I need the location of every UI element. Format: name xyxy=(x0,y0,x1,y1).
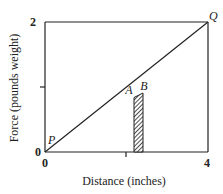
shaded-strip xyxy=(134,93,143,152)
point-p-label: P xyxy=(47,133,56,147)
x-axis-title: Distance (inches) xyxy=(82,174,166,188)
point-a-label: A xyxy=(124,83,133,97)
point-b-label: B xyxy=(140,79,148,93)
point-q-label: Q xyxy=(209,9,218,23)
y-axis-title: Force (pounds weight) xyxy=(7,34,21,143)
x-tick-max-label: 4 xyxy=(204,156,210,170)
x-tick-min-label: 0 xyxy=(42,156,48,170)
y-tick-max-label: 2 xyxy=(30,15,36,29)
y-tick-min-label: 0 xyxy=(35,145,41,159)
force-distance-diagram: 2 0 0 4 P Q A B Distance (inches) Force … xyxy=(0,0,223,194)
